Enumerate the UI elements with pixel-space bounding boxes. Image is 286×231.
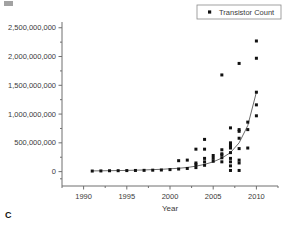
data-point-marker (229, 157, 232, 160)
data-point-marker (203, 164, 206, 167)
x-tick-label: 1990 (75, 192, 92, 201)
data-point-marker (255, 57, 258, 60)
data-point-marker (238, 169, 241, 172)
data-point-marker (255, 91, 258, 94)
data-point-marker (255, 39, 258, 42)
transistor-count-chart: 0500,000,0001,000,000,0001,500,000,0002,… (0, 0, 286, 231)
data-point-marker (220, 160, 223, 163)
data-point-marker (177, 168, 180, 171)
data-point-marker (212, 157, 215, 160)
data-point-marker (238, 159, 241, 162)
data-point-marker (194, 161, 197, 164)
data-point-marker (229, 151, 232, 154)
data-point-marker (220, 73, 223, 76)
data-point-marker (160, 169, 163, 172)
data-point-marker (229, 164, 232, 167)
data-point-marker (238, 137, 241, 140)
data-point-marker (194, 166, 197, 169)
data-point-marker (212, 160, 215, 163)
data-point-marker (117, 169, 120, 172)
data-point-marker (246, 121, 249, 124)
x-axis-title: Year (162, 204, 179, 213)
data-point-marker (203, 138, 206, 141)
data-point-marker (125, 169, 128, 172)
y-tick-label: 1,500,000,000 (8, 81, 56, 90)
x-tick-label: 1995 (118, 192, 135, 201)
x-tick-label: 2000 (162, 192, 179, 201)
data-point-marker (151, 169, 154, 172)
x-tick-label: 2010 (248, 192, 265, 201)
data-point-marker (91, 170, 94, 173)
data-point-marker (238, 147, 241, 150)
data-point-marker (229, 160, 232, 163)
x-tick-label: 2005 (205, 192, 222, 201)
data-point-marker (255, 103, 258, 106)
data-point-marker (220, 152, 223, 155)
data-point-marker (169, 168, 172, 171)
data-point-marker (108, 169, 111, 172)
data-point-marker (177, 159, 180, 162)
figure-panel-c: 0500,000,0001,000,000,0001,500,000,0002,… (0, 0, 286, 231)
y-tick-label: 1,000,000,000 (8, 110, 56, 119)
y-tick-label: 2,500,000,000 (8, 23, 56, 32)
legend-entry-label: Transistor Count (219, 8, 275, 17)
data-point-marker (134, 169, 137, 172)
data-point-marker (246, 147, 249, 150)
data-point-marker (143, 169, 146, 172)
data-point-marker (194, 148, 197, 151)
data-point-marker (203, 148, 206, 151)
data-point-marker (229, 126, 232, 129)
data-point-marker (238, 128, 241, 131)
data-point-marker (212, 154, 215, 157)
data-point-marker (220, 156, 223, 159)
data-point-marker (203, 160, 206, 163)
data-point-marker (186, 167, 189, 170)
panel-label: C (5, 210, 12, 220)
legend-square-marker-icon (208, 10, 211, 13)
y-tick-label: 2,000,000,000 (8, 52, 56, 61)
data-point-marker (220, 148, 223, 151)
data-point-marker (186, 159, 189, 162)
data-point-marker (203, 157, 206, 160)
y-tick-label: 0 (52, 167, 56, 176)
data-point-marker (246, 128, 249, 131)
data-point-marker (238, 62, 241, 65)
data-point-marker (229, 169, 232, 172)
data-point-marker (99, 169, 102, 172)
y-tick-label: 500,000,000 (14, 138, 56, 147)
data-point-marker (255, 114, 258, 117)
data-point-marker (229, 141, 232, 144)
data-point-marker (238, 161, 241, 164)
